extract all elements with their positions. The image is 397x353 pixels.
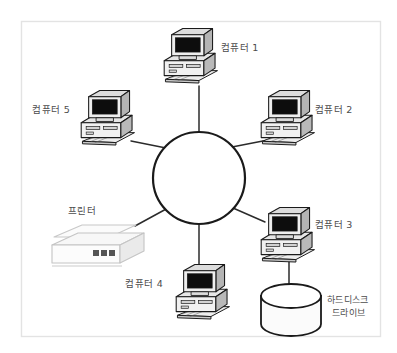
- node-label-computer-1: 컴퓨터 1: [221, 42, 259, 53]
- node-label-hard-disk-line1: 하드디스크: [327, 295, 369, 305]
- node-label-computer-2: 컴퓨터 2: [315, 104, 353, 115]
- network-diagram: 컴퓨터 1 컴퓨터 2 컴퓨터 3 컴퓨터 4: [0, 0, 397, 353]
- diagram-canvas: 컴퓨터 1 컴퓨터 2 컴퓨터 3 컴퓨터 4: [0, 0, 397, 353]
- desktop-computer-icon: [261, 207, 314, 262]
- desktop-computer-icon: [164, 28, 217, 83]
- node-label-hard-disk-line2: 드라이브: [332, 308, 365, 318]
- node-label-computer-3: 컴퓨터 3: [315, 219, 353, 230]
- desktop-computer-icon: [261, 90, 314, 145]
- node-label-computer-5: 컴퓨터 5: [32, 104, 70, 115]
- node-label-computer-4: 컴퓨터 4: [125, 278, 163, 289]
- desktop-computer-icon: [81, 90, 134, 145]
- hard-disk-cylinder-icon: [261, 284, 321, 336]
- node-label-printer: 프린터: [68, 205, 96, 216]
- desktop-computer-icon: [176, 264, 229, 319]
- network-hub-circle: [153, 132, 245, 224]
